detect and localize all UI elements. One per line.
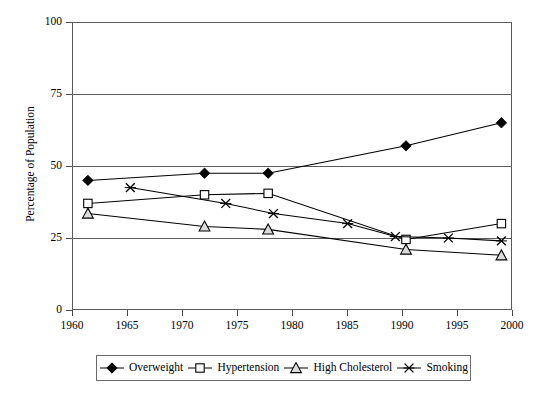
x-tick-mark bbox=[347, 310, 348, 316]
x-tick-mark bbox=[512, 310, 513, 316]
y-tick-label-75: 75 bbox=[2, 88, 62, 100]
legend-item-hypertension[interactable]: Hypertension bbox=[185, 362, 281, 374]
legend-label: Hypertension bbox=[217, 362, 279, 374]
x-tick-mark bbox=[127, 310, 128, 316]
x-tick-mark bbox=[72, 310, 73, 316]
y-tick-label-100: 100 bbox=[2, 16, 62, 28]
y-tick-label-25: 25 bbox=[2, 232, 62, 244]
x-tick-label-1985: 1985 bbox=[322, 320, 372, 332]
x-tick-label-1960: 1960 bbox=[47, 320, 97, 332]
x-tick-mark bbox=[457, 310, 458, 316]
cross-x-icon bbox=[396, 362, 422, 374]
open-square-marker bbox=[196, 364, 204, 372]
chart-page: Percentage of Population 100 75 50 25 0 … bbox=[0, 0, 540, 398]
legend: Overweight Hypertension High Cholesterol… bbox=[96, 355, 471, 381]
x-tick-mark bbox=[402, 310, 403, 316]
legend-item-overweight[interactable]: Overweight bbox=[97, 362, 185, 374]
x-tick-mark bbox=[182, 310, 183, 316]
y-tick-label-0: 0 bbox=[2, 304, 62, 316]
gridline-25 bbox=[73, 238, 511, 239]
x-tick-label-1995: 1995 bbox=[432, 320, 482, 332]
filled-diamond-marker bbox=[107, 363, 117, 373]
x-tick-label-2000: 2000 bbox=[487, 320, 537, 332]
x-tick-mark bbox=[237, 310, 238, 316]
legend-item-high-cholesterol[interactable]: High Cholesterol bbox=[281, 362, 394, 374]
open-triangle-icon bbox=[283, 362, 309, 374]
y-axis: 100 75 50 25 0 bbox=[0, 0, 72, 398]
x-tick-label-1990: 1990 bbox=[377, 320, 427, 332]
x-tick-label-1970: 1970 bbox=[157, 320, 207, 332]
gridline-50 bbox=[73, 166, 511, 167]
legend-item-smoking[interactable]: Smoking bbox=[394, 362, 470, 374]
gridline-75 bbox=[73, 94, 511, 95]
x-tick-label-1975: 1975 bbox=[212, 320, 262, 332]
legend-label: High Cholesterol bbox=[313, 362, 392, 374]
y-tick-label-50: 50 bbox=[2, 160, 62, 172]
x-tick-label-1980: 1980 bbox=[267, 320, 317, 332]
plot-area bbox=[72, 22, 512, 310]
legend-label: Smoking bbox=[426, 362, 468, 374]
filled-diamond-icon bbox=[99, 362, 125, 374]
x-tick-mark bbox=[292, 310, 293, 316]
cross-x-marker bbox=[404, 364, 415, 373]
open-square-icon bbox=[187, 362, 213, 374]
legend-label: Overweight bbox=[129, 362, 183, 374]
x-tick-label-1965: 1965 bbox=[102, 320, 152, 332]
